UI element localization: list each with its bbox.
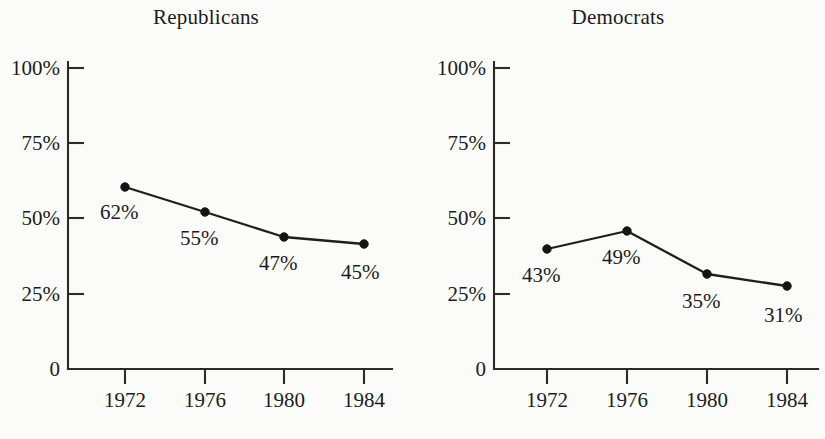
x-tick-label-1976-right: 1976 [582,390,672,411]
y-tick-label-25-right: 25% [416,284,486,305]
y-tick-label-0-left: 0 [0,359,60,380]
x-tick-label-1984-right: 1984 [742,390,825,411]
y-tick-label-100-left: 100% [0,58,60,79]
y-tick-label-75-right: 75% [416,133,486,154]
y-tick-label-50-left: 50% [0,208,60,229]
data-label-1976-right: 49% [602,247,641,268]
figure-two-line-charts: Republicans 100% 75% 50% [0,0,825,439]
x-tick-label-1980-right: 1980 [662,390,752,411]
data-point-1980-left [280,233,288,241]
data-point-1984-right [783,282,791,290]
data-label-1980-left: 47% [259,253,298,274]
x-tick-label-1980-left: 1980 [239,390,329,411]
data-line-republicans [125,187,364,244]
data-point-1976-left [201,208,209,216]
chart-panel-republicans: Republicans 100% 75% 50% [0,0,412,439]
data-line-democrats [547,231,787,286]
y-tick-label-25-left: 25% [0,284,60,305]
data-label-1972-left: 62% [100,202,139,223]
data-point-1976-right [623,227,631,235]
data-point-1984-left [360,240,368,248]
x-tick-label-1972-left: 1972 [80,390,170,411]
data-label-1980-right: 35% [682,291,721,312]
y-tick-label-0-right: 0 [416,359,486,380]
data-point-1972-left [121,183,129,191]
data-point-1980-right [703,270,711,278]
y-tick-label-75-left: 75% [0,133,60,154]
x-tick-label-1972-right: 1972 [502,390,592,411]
data-label-1972-right: 43% [522,265,561,286]
data-label-1984-right: 31% [764,305,803,326]
data-point-1972-right [543,245,551,253]
data-label-1984-left: 45% [341,262,380,283]
y-tick-label-50-right: 50% [416,208,486,229]
data-label-1976-left: 55% [180,228,219,249]
plot-area-republicans [0,0,412,439]
x-tick-label-1976-left: 1976 [160,390,250,411]
x-tick-label-1984-left: 1984 [319,390,409,411]
chart-panel-democrats: Democrats 100% 75% 50% [412,0,824,439]
y-tick-label-100-right: 100% [416,58,486,79]
